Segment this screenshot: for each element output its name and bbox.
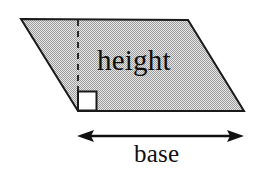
base-label: base (134, 141, 179, 166)
parallelogram-diagram: height base (0, 0, 258, 171)
diagram-canvas (0, 0, 258, 171)
right-angle-marker-icon (78, 92, 97, 111)
height-label: height (97, 46, 171, 75)
